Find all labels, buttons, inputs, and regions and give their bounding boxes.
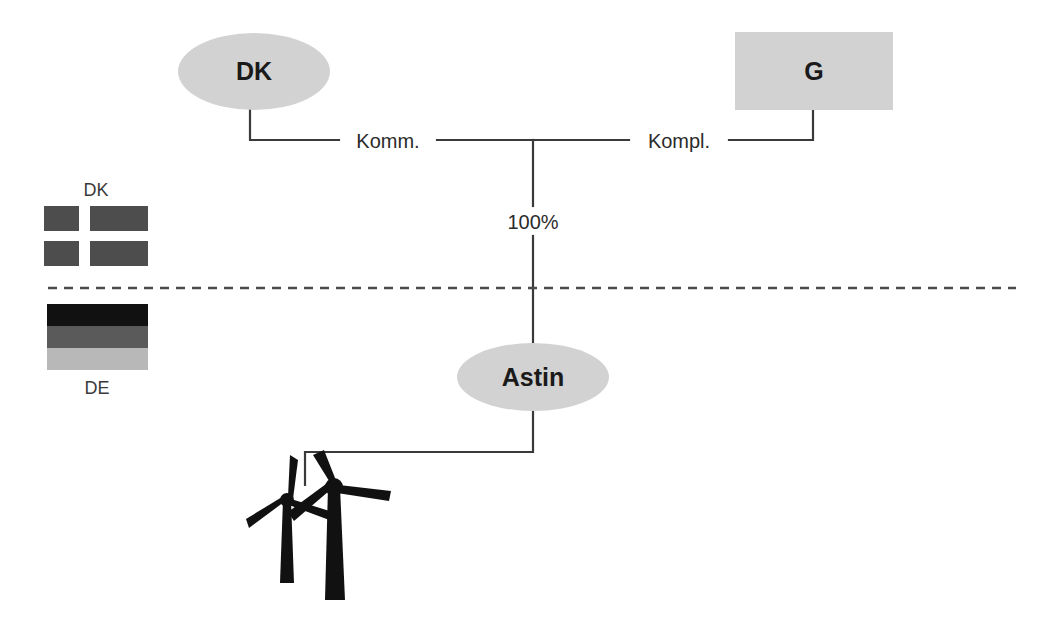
wind-turbine-icon-left bbox=[246, 455, 336, 583]
wind-turbine-icon-right bbox=[288, 450, 391, 600]
turbine-left-blade-2 bbox=[246, 497, 284, 528]
flag-de-band-black bbox=[47, 304, 148, 326]
connector-dk-to-junction bbox=[250, 110, 339, 140]
connector-g-to-junction bbox=[729, 110, 813, 140]
flag-dk-quadrant-top-right bbox=[90, 206, 148, 231]
turbine-right-tower bbox=[325, 487, 345, 600]
wind-turbine-icon-group bbox=[246, 450, 391, 600]
turbine-right-blade-2 bbox=[337, 485, 391, 501]
connector-group bbox=[250, 110, 813, 485]
node-astin-label: Astin bbox=[502, 363, 565, 391]
turbine-right-blade-1 bbox=[313, 450, 337, 484]
edge-label-komm: Komm. bbox=[356, 130, 419, 152]
flag-de-caption: DE bbox=[84, 378, 109, 398]
diagram-canvas: DK G Astin Komm. Kompl. 100% DK bbox=[0, 0, 1057, 622]
flag-dk-caption: DK bbox=[83, 180, 108, 200]
flag-de: DE bbox=[47, 304, 148, 398]
flag-dk-quadrant-bottom-left bbox=[44, 241, 79, 266]
node-dk-label: DK bbox=[236, 57, 272, 85]
flag-de-band-gold bbox=[47, 348, 148, 370]
flag-dk-quadrant-top-left bbox=[44, 206, 79, 231]
edge-label-ownership-percent: 100% bbox=[507, 211, 558, 233]
node-astin[interactable]: Astin bbox=[457, 343, 609, 411]
flag-dk: DK bbox=[44, 180, 148, 266]
diagram-svg: DK G Astin Komm. Kompl. 100% DK bbox=[0, 0, 1057, 622]
flag-de-band-red bbox=[47, 326, 148, 348]
node-g[interactable]: G bbox=[735, 32, 893, 110]
flag-dk-quadrant-bottom-right bbox=[90, 241, 148, 266]
connector-astin-to-windfarm bbox=[305, 409, 533, 485]
node-g-label: G bbox=[804, 57, 823, 85]
turbine-left-blade-1 bbox=[288, 455, 298, 499]
edge-label-kompl: Kompl. bbox=[648, 130, 710, 152]
node-dk[interactable]: DK bbox=[178, 33, 330, 110]
